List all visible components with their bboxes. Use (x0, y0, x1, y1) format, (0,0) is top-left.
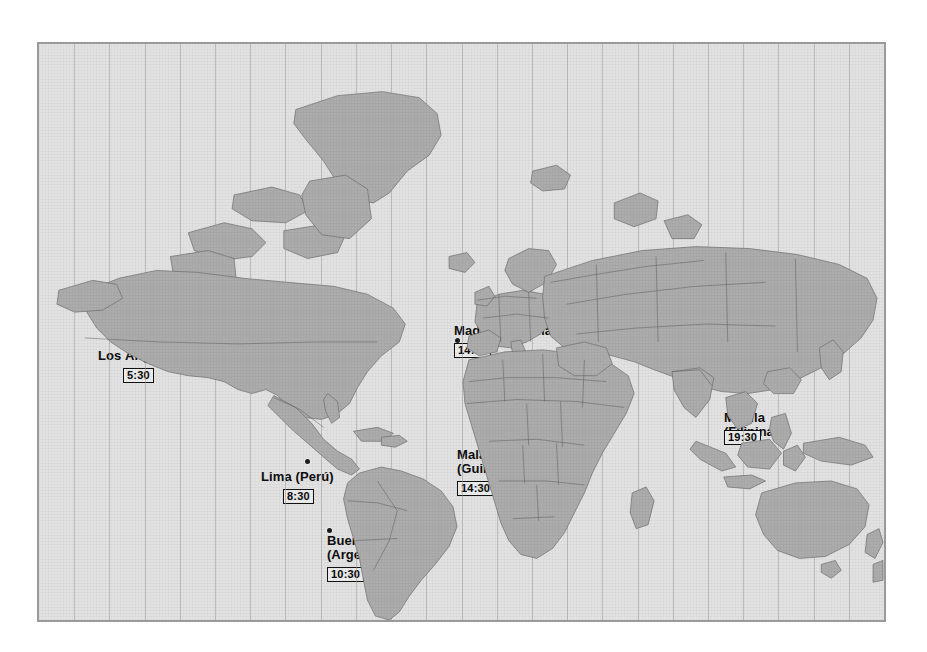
iceland (449, 253, 475, 273)
arctic-islands-b (232, 187, 308, 223)
new-zealand-south (873, 560, 883, 582)
madagascar (630, 487, 654, 529)
india (672, 368, 714, 418)
africa (463, 350, 634, 559)
svalbard (531, 165, 571, 191)
world-timezone-map: Los Ángeles5:30Chicago7:30Nueva York8:30… (37, 42, 886, 622)
sumatra (690, 441, 736, 471)
arctic-siberian-islands-b (664, 215, 702, 239)
sulawesi (783, 445, 805, 471)
landmass-layer (39, 44, 884, 620)
java (724, 475, 766, 489)
north-america (85, 270, 405, 419)
tasmania (821, 560, 841, 578)
indochina (726, 392, 758, 430)
borneo (738, 439, 782, 469)
south-america (344, 467, 457, 620)
arctic-siberian-islands-a (614, 193, 658, 227)
hispaniola (381, 435, 407, 447)
new-zealand (865, 529, 883, 559)
australia (756, 481, 869, 558)
new-guinea (803, 437, 873, 465)
